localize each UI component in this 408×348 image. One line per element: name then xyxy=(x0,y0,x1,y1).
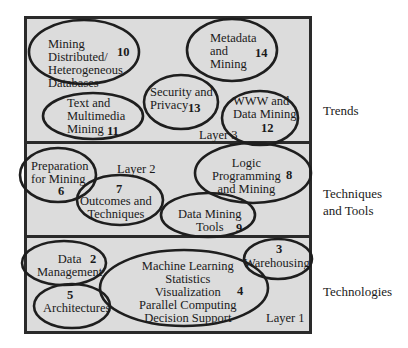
layer-1-name: Layer 1 xyxy=(266,311,305,326)
topic-13-label: Security and Privacy xyxy=(150,86,213,112)
topic-12-label: WWW and Data Mining xyxy=(233,95,297,121)
topic-7-number: 7 xyxy=(116,182,122,197)
layer-3-name: Layer 3 xyxy=(199,128,238,143)
topic-8-label: Logic Programming and Mining xyxy=(212,157,281,196)
topic-3-label: Warehousing xyxy=(244,257,310,270)
topic-10-label: Mining Distributed/ Heterogeneous Databa… xyxy=(48,38,123,90)
topic-5-number: 5 xyxy=(67,288,73,303)
topic-4-label: Machine Learning Statistics Visualizatio… xyxy=(139,260,237,325)
topic-4-number: 4 xyxy=(237,284,243,299)
topic-6-label: Preparation for Mining xyxy=(31,160,89,186)
side-label-trends: Trends xyxy=(323,102,359,119)
layer-2-name: Layer 2 xyxy=(117,162,156,177)
topic-9-number: 9 xyxy=(236,221,242,236)
topic-5-label: Architectures xyxy=(43,302,110,315)
topic-3-number: 3 xyxy=(276,242,282,257)
topic-13-number: 13 xyxy=(188,101,201,116)
topic-14-label: Metadata and Mining xyxy=(210,32,257,71)
topic-12-number: 12 xyxy=(261,121,274,136)
topic-8-number: 8 xyxy=(286,168,292,183)
topic-2-number: 2 xyxy=(90,252,96,267)
topic-6-number: 6 xyxy=(58,184,64,199)
side-label-technologies: Technologies xyxy=(323,283,392,300)
topic-9-label: Data Mining Tools xyxy=(178,208,242,234)
topic-7-label: Outcomes and Techniques xyxy=(80,195,152,221)
topic-14-number: 14 xyxy=(255,46,268,61)
topic-11-number: 11 xyxy=(107,124,119,139)
topic-10-number: 10 xyxy=(117,45,130,60)
side-label-techniques-and-tools: Techniques and Tools xyxy=(323,185,382,219)
